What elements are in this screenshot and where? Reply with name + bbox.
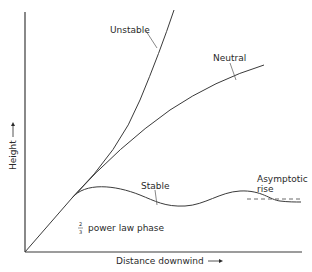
power-law-phase-label: 2 3 power law phase [78, 221, 165, 235]
y-axis-arrow-icon [11, 122, 15, 137]
neutral-curve [72, 65, 264, 198]
asymptotic-label-line2: rise [257, 184, 274, 194]
x-axis-arrow-icon [208, 259, 223, 263]
x-axis-label: Distance downwind [116, 256, 204, 266]
plume-rise-diagram: Unstable Neutral Stable Asymptotic rise … [0, 0, 312, 272]
power-law-phase-line [25, 198, 72, 252]
unstable-curve [72, 10, 174, 198]
y-axis-label: Height [8, 140, 18, 170]
power-law-text: power law phase [88, 223, 165, 233]
fraction-denominator: 3 [79, 229, 82, 235]
stable-label: Stable [141, 181, 170, 191]
unstable-label: Unstable [110, 25, 150, 35]
asymptotic-label-line1: Asymptotic [257, 174, 308, 184]
stable-leader [155, 190, 157, 205]
neutral-label: Neutral [213, 53, 246, 63]
fraction-numerator: 2 [79, 221, 82, 227]
